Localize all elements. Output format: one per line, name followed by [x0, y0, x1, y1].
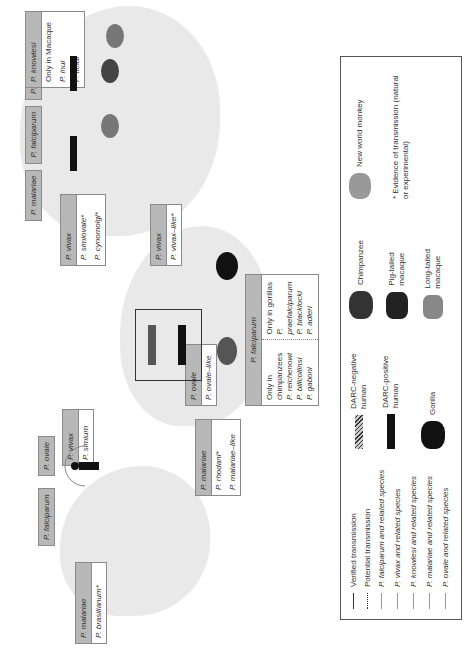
species: P. billcollinsi [295, 346, 305, 401]
new-world-monkey-icon [349, 173, 371, 199]
species: P. reichenowi [285, 346, 295, 401]
box-header: P. falciparum [246, 275, 262, 405]
af-human-frame [135, 309, 202, 381]
gorilla-column: Only in gorillas P. praefalciparum P. bl… [262, 275, 318, 340]
legend-potential: Potential transmission [363, 509, 372, 609]
box-body-2: P. malariae–like [226, 420, 240, 495]
af-malariae-box: P. malariae P. rhodani* P. malariae–like [195, 419, 241, 496]
asia-falciparum-box: P. falciparum [25, 106, 42, 164]
sa-malariae-box: P. malariae P. brasilianum* [75, 562, 107, 644]
box-header: P. knowlesi [26, 12, 42, 87]
asia-hosts-icon [55, 16, 145, 186]
legend-falciparum: P. falciparum and related species [377, 470, 386, 609]
darc-humans-icon [136, 310, 201, 380]
chimp-column: Only in chimpanzees P. reichenowi P. bil… [262, 340, 318, 406]
col-text: chimpanzees [275, 346, 285, 401]
legend-malariae: P. malariae and related species [425, 476, 434, 609]
box-header: P. malariae [76, 563, 92, 643]
legend-pig-tailed-macaque: Pig-tailed macaque [386, 219, 408, 319]
af-vivax-box: P. vivax P. vivax–like* [150, 204, 182, 266]
darc-negative-human-icon [355, 415, 363, 449]
box-body: P. vivax–like* [167, 205, 181, 265]
box-header: P. vivax [151, 205, 167, 265]
gorilla-icon [421, 421, 445, 449]
sa-falciparum-box: P. falciparum [38, 488, 55, 546]
box-body: P. brasilianum* [92, 563, 106, 643]
box-header: P. malariae [196, 420, 212, 495]
af-chimpanzee-icon [210, 331, 245, 371]
asia-vivax-box: P. vivax P. simiovale* P. cynomolgi* [60, 194, 106, 266]
sa-ovale-box: P. ovale [38, 436, 55, 476]
species: P. adleri [305, 280, 315, 335]
col-text: Only in [265, 346, 275, 401]
pig-tailed-macaque-icon [386, 292, 408, 319]
legend-gorilla: Gorilla [421, 329, 445, 449]
box-body-1: Only in Macaque [42, 12, 56, 87]
long-tailed-macaque-icon [423, 295, 443, 319]
legend-darc-negative: DARC-negative human [349, 329, 369, 449]
box-body-1: P. rhodani* [212, 420, 226, 495]
box-header: P. vivax [61, 195, 77, 265]
darc-positive-human-icon [387, 414, 395, 449]
asia-malariae-box: P. malariae [25, 170, 42, 221]
sa-human-icon [60, 441, 110, 491]
box-body-1: P. simiovale* [77, 195, 91, 265]
col-text: Only in gorillas [265, 280, 275, 335]
diagram-canvas: P. malariae P. brasilianum* P. falciparu… [0, 0, 473, 656]
legend-knowlesi: P. knowlesi and related species [409, 476, 418, 609]
box-body-2: P. cynomolgi* [91, 195, 105, 265]
legend-verified: Verified transmission [349, 513, 358, 609]
legend-chimpanzee: Chimpanzee [349, 219, 373, 319]
af-falciparum-box: P. falciparum Only in chimpanzees P. rei… [245, 274, 319, 406]
legend-box: Verified transmission Potential transmis… [340, 56, 462, 620]
chimpanzee-icon [349, 291, 373, 319]
legend-darc-positive: DARC-positive human [381, 329, 401, 449]
legend-vivax: P. vivax and related species [393, 488, 402, 609]
species: P. praefalciparum [275, 280, 295, 335]
legend-note: * Evidence of transmission (natural or e… [391, 69, 411, 199]
legend-long-tailed-macaque: Long-tailed macaque [423, 219, 443, 319]
species: P. blacklocki [295, 280, 305, 335]
legend-new-world-monkey: New world monkey [349, 69, 371, 199]
species: P. gaboni [305, 346, 315, 401]
af-gorilla-icon [210, 246, 245, 286]
legend-ovale: P. ovale and related species [441, 488, 450, 609]
